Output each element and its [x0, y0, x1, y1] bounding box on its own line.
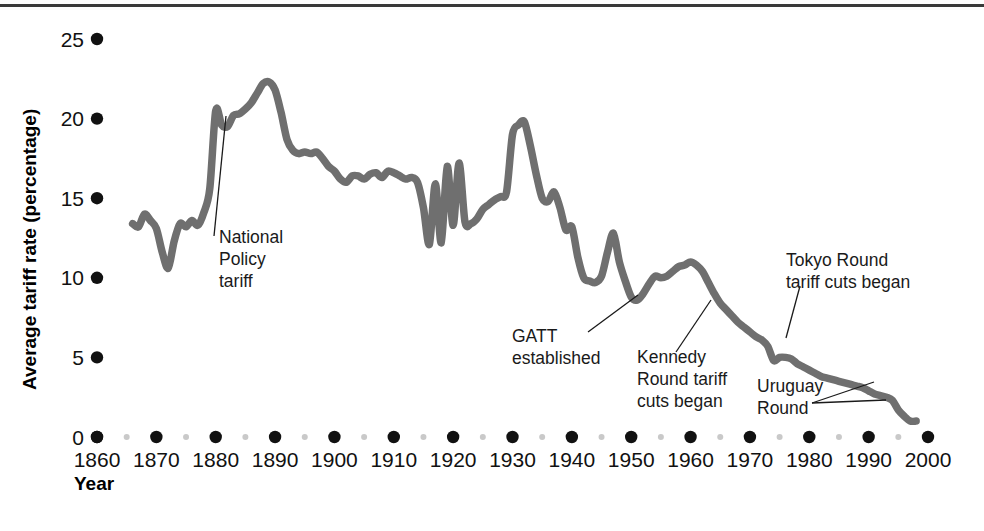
x-tick-dot	[862, 431, 874, 443]
y-tick-label: 10	[61, 266, 84, 289]
x-minor-tick-dot	[420, 434, 426, 440]
x-minor-tick-dot	[658, 434, 664, 440]
x-tick-label: 1980	[786, 448, 833, 471]
y-axis-tick-labels: 0510152025	[61, 28, 84, 449]
x-tick-dot	[447, 431, 459, 443]
y-tick-dot	[91, 351, 103, 363]
x-minor-tick-dot	[183, 434, 189, 440]
x-tick-label: 1880	[192, 448, 239, 471]
x-minor-tick-dot	[777, 434, 783, 440]
x-tick-dot	[625, 431, 637, 443]
x-tick-dot	[388, 431, 400, 443]
x-tick-dot	[922, 431, 934, 443]
x-axis-tick-labels: 1860187018801890190019101920193019401950…	[74, 448, 952, 471]
x-axis-title: Year	[74, 473, 115, 494]
leader-line-tokyo-round	[786, 286, 800, 338]
annotation-uruguay-round: UruguayRound	[757, 376, 823, 418]
annotation-gatt-established: GATTestablished	[512, 326, 601, 368]
y-tick-dot	[91, 192, 103, 204]
x-tick-label: 1940	[548, 448, 595, 471]
x-tick-dot	[269, 431, 281, 443]
x-minor-tick-dot	[124, 434, 130, 440]
x-minor-tick-dot	[599, 434, 605, 440]
x-tick-dot	[210, 431, 222, 443]
y-tick-label: 0	[72, 426, 84, 449]
x-minor-tick-dot	[539, 434, 545, 440]
y-axis-title: Average tariff rate (percentage)	[19, 109, 40, 390]
x-minor-tick-dot	[836, 434, 842, 440]
x-tick-label: 1970	[727, 448, 774, 471]
x-tick-dot	[744, 431, 756, 443]
y-tick-label: 25	[61, 28, 84, 51]
x-tick-dot	[684, 431, 696, 443]
x-minor-tick-dot	[302, 434, 308, 440]
annotation-labels: NationalPolicytariffGATTestablishedKenne…	[219, 227, 910, 418]
x-tick-label: 1960	[667, 448, 714, 471]
leader-line-uruguay-round	[812, 400, 886, 403]
x-minor-tick-dot	[480, 434, 486, 440]
y-axis-tick-markers	[91, 33, 103, 443]
annotation-tokyo-round: Tokyo Roundtariff cuts began	[786, 250, 910, 292]
x-tick-label: 1860	[74, 448, 121, 471]
x-tick-dot	[566, 431, 578, 443]
y-tick-label: 5	[72, 346, 84, 369]
x-tick-dot	[328, 431, 340, 443]
tariff-rate-figure: 0510152025 18601870188018901900191019201…	[0, 0, 984, 531]
y-tick-dot	[91, 272, 103, 284]
leader-line-kennedy-round	[676, 300, 711, 352]
x-tick-label: 1910	[370, 448, 417, 471]
y-tick-label: 15	[61, 187, 84, 210]
x-tick-label: 1890	[252, 448, 299, 471]
annotation-kennedy-round: KennedyRound tariffcuts began	[637, 347, 727, 411]
x-tick-label: 2000	[905, 448, 952, 471]
x-minor-tick-dot	[717, 434, 723, 440]
x-tick-label: 1930	[489, 448, 536, 471]
y-tick-dot	[91, 33, 103, 45]
x-tick-dot	[150, 431, 162, 443]
annotation-national-policy-tariff: NationalPolicytariff	[219, 227, 283, 291]
x-tick-dot	[803, 431, 815, 443]
x-tick-label: 1950	[608, 448, 655, 471]
y-tick-dot	[91, 112, 103, 124]
x-tick-label: 1920	[430, 448, 477, 471]
x-tick-dot	[506, 431, 518, 443]
x-minor-tick-dot	[895, 434, 901, 440]
chart-canvas: 0510152025 18601870188018901900191019201…	[0, 0, 984, 531]
x-axis-major-tick-markers	[91, 431, 934, 443]
x-tick-label: 1990	[845, 448, 892, 471]
x-minor-tick-dot	[361, 434, 367, 440]
x-tick-label: 1870	[133, 448, 180, 471]
x-tick-dot	[91, 431, 103, 443]
x-minor-tick-dot	[242, 434, 248, 440]
x-tick-label: 1900	[311, 448, 358, 471]
leader-line-gatt-established	[588, 295, 638, 332]
y-tick-label: 20	[61, 107, 84, 130]
